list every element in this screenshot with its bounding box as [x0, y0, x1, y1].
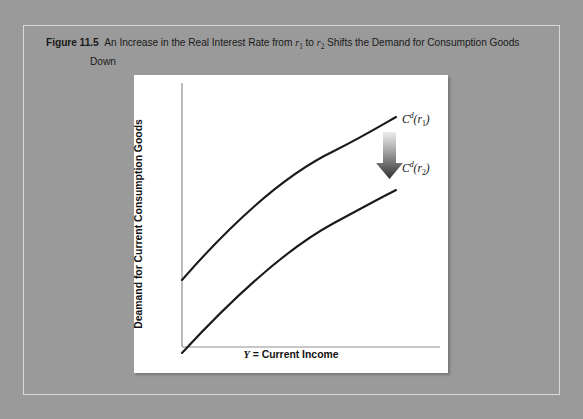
curve-cd-r1 [182, 117, 396, 280]
x-axis-text: Current Income [262, 349, 339, 360]
figure-frame: Figure 11.5 An Increase in the Real Inte… [23, 25, 560, 395]
caption-text-mid: to [303, 37, 317, 48]
x-axis-equals: = [250, 349, 262, 360]
curve-cd-r2 [182, 190, 396, 353]
caption-text-pre: An Increase in the Real Interest Rate fr… [104, 37, 295, 48]
downward-shift-arrow-icon [376, 132, 403, 179]
chart-plot-area [134, 75, 448, 373]
caption-line-1: Figure 11.5 An Increase in the Real Inte… [46, 36, 546, 55]
caption-text-post: Shifts the Demand for Consumption Goods [324, 37, 519, 48]
figure-number: Figure 11.5 [46, 37, 99, 48]
chart-panel: Deamand for Current Consumption Goods [134, 75, 448, 373]
caption-line-2: Down [90, 55, 546, 70]
caption-variable-r1: r1 [295, 37, 303, 48]
curve-label-cd-r1: Cd(r1) [402, 111, 430, 128]
x-axis-label: Y = Current Income [134, 349, 448, 360]
curve-label-cd-r2: Cd(r2) [402, 160, 430, 177]
figure-caption: Figure 11.5 An Increase in the Real Inte… [46, 36, 546, 69]
